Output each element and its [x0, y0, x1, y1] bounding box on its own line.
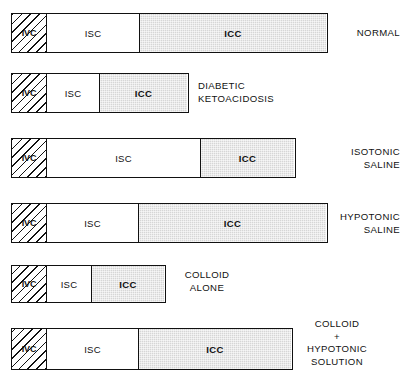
segment-ivc-normal: IVC [12, 14, 46, 52]
row-label-hypotonic-saline: HYPOTONIC SALINE [318, 211, 400, 236]
compartment-bar-normal: IVCISCICC [11, 13, 328, 53]
row-label-colloid-plus-hypotonic-solution: COLLOID + HYPOTONIC SOLUTION [294, 318, 380, 368]
segment-isc-isotonic-saline: ISC [46, 139, 200, 177]
segment-label-ivc: IVC [22, 218, 36, 228]
segment-ivc-diabetic-ketoacidosis: IVC [12, 74, 46, 112]
segment-icc-normal: ICC [139, 14, 326, 52]
segment-label-icc: ICC [119, 279, 136, 290]
compartment-bar-isotonic-saline: IVCISCICC [11, 138, 296, 178]
segment-icc-colloid-alone: ICC [91, 266, 164, 302]
fluid-compartment-diagram: IVCISCICCNORMALIVCISCICCDIABETIC KETOACI… [0, 0, 405, 381]
segment-label-icc: ICC [224, 218, 241, 229]
compartment-bar-colloid-alone: IVCISCICC [11, 265, 166, 303]
segment-isc-diabetic-ketoacidosis: ISC [46, 74, 99, 112]
segment-isc-colloid-plus-hypotonic-solution: ISC [46, 329, 138, 369]
segment-label-ivc: IVC [22, 344, 36, 354]
segment-icc-hypotonic-saline: ICC [138, 204, 326, 242]
segment-label-isc: ISC [65, 88, 82, 99]
segment-ivc-colloid-alone: IVC [12, 266, 46, 302]
segment-label-ivc: IVC [22, 153, 36, 163]
segment-label-isc: ISC [115, 153, 132, 164]
segment-label-isc: ISC [85, 28, 102, 39]
row-label-isotonic-saline: ISOTONIC SALINE [318, 146, 400, 171]
segment-icc-isotonic-saline: ICC [200, 139, 294, 177]
row-label-colloid-alone: COLLOID ALONE [176, 269, 238, 294]
segment-isc-colloid-alone: ISC [46, 266, 91, 302]
segment-label-icc: ICC [239, 153, 256, 164]
segment-isc-normal: ISC [46, 14, 139, 52]
segment-label-ivc: IVC [22, 28, 36, 38]
segment-label-isc: ISC [84, 344, 101, 355]
row-label-diabetic-ketoacidosis: DIABETIC KETOACIDOSIS [198, 80, 328, 105]
segment-icc-diabetic-ketoacidosis: ICC [99, 74, 187, 112]
segment-ivc-isotonic-saline: IVC [12, 139, 46, 177]
segment-label-icc: ICC [224, 28, 241, 39]
row-label-normal: NORMAL [330, 27, 400, 40]
segment-label-isc: ISC [61, 279, 78, 290]
compartment-bar-hypotonic-saline: IVCISCICC [11, 203, 328, 243]
segment-ivc-colloid-plus-hypotonic-solution: IVC [12, 329, 46, 369]
segment-label-ivc: IVC [22, 279, 36, 289]
segment-isc-hypotonic-saline: ISC [46, 204, 138, 242]
segment-label-icc: ICC [135, 88, 152, 99]
segment-label-isc: ISC [84, 218, 101, 229]
segment-ivc-hypotonic-saline: IVC [12, 204, 46, 242]
segment-label-ivc: IVC [22, 88, 36, 98]
compartment-bar-diabetic-ketoacidosis: IVCISCICC [11, 73, 189, 113]
segment-icc-colloid-plus-hypotonic-solution: ICC [138, 329, 291, 369]
compartment-bar-colloid-plus-hypotonic-solution: IVCISCICC [11, 328, 293, 370]
segment-label-icc: ICC [206, 344, 223, 355]
